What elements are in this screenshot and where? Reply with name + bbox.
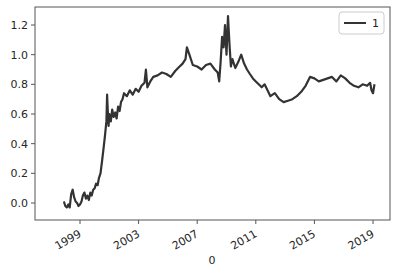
y-axis: 0.00.20.40.60.81.01.2 [11, 19, 36, 210]
line-chart: 0.00.20.40.60.81.01.2 199920032007201120… [0, 0, 397, 279]
y-tick-label: 0.6 [11, 108, 29, 121]
y-tick-label: 0.8 [11, 78, 29, 91]
series-line-1 [64, 16, 375, 207]
x-tick-label: 2007 [170, 227, 201, 252]
x-axis-label: 0 [209, 254, 216, 267]
plot-line-group [64, 16, 375, 207]
y-tick-label: 0.4 [11, 138, 29, 151]
x-axis: 199920032007201120152019 [53, 220, 377, 253]
y-tick-label: 1.2 [11, 19, 29, 32]
x-tick-label: 2019 [346, 227, 377, 252]
y-tick-label: 1.0 [11, 49, 29, 62]
y-tick-label: 0.2 [11, 167, 29, 180]
x-tick-label: 1999 [53, 227, 84, 252]
legend: 1 [339, 12, 384, 34]
x-tick-label: 2015 [287, 227, 318, 252]
y-tick-label: 0.0 [11, 197, 29, 210]
x-tick-label: 2011 [229, 227, 260, 252]
legend-label: 1 [372, 17, 379, 30]
axes-frame [35, 7, 390, 220]
x-tick-label: 2003 [111, 227, 142, 252]
